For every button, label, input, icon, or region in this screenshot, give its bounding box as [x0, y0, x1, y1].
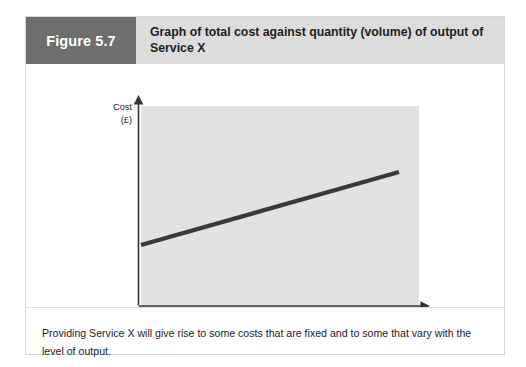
figure-number-label: Figure 5.7 [46, 33, 116, 49]
figure-number-badge: Figure 5.7 [26, 17, 136, 64]
chart-region: Cost (£) Quantity (units) [26, 64, 504, 307]
caption-text: Providing Service X will give rise to so… [42, 327, 471, 357]
y-axis-label-line1: Cost [113, 102, 132, 112]
figure-title-container: Graph of total cost against quantity (vo… [136, 17, 504, 64]
figure-container: Figure 5.7 Graph of total cost against q… [25, 16, 505, 355]
y-axis-label-line2: (£) [121, 115, 132, 125]
figure-header: Figure 5.7 Graph of total cost against q… [26, 17, 504, 64]
caption-container: Providing Service X will give rise to so… [26, 308, 504, 360]
figure-title-label: Graph of total cost against quantity (vo… [150, 25, 494, 56]
cost-quantity-line-chart: Cost (£) Quantity (units) [26, 64, 504, 307]
